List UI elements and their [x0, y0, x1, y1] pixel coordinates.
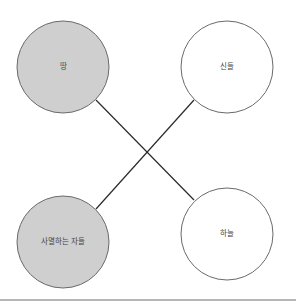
node-label-sky: 하늘	[220, 228, 234, 238]
edge-earth-sky	[96, 100, 194, 200]
node-label-gods: 신들	[220, 62, 234, 71]
node-earth: 땅	[17, 21, 109, 113]
fourfold-diagram: 땅 신들 사멸하는 자들 하늘	[0, 0, 296, 308]
node-gods: 신들	[181, 21, 273, 113]
node-sky: 하늘	[181, 188, 273, 280]
node-label-mortals: 사멸하는 자들	[41, 236, 85, 246]
edges	[96, 100, 194, 209]
node-mortals: 사멸하는 자들	[17, 196, 109, 288]
edge-gods-mortals	[96, 100, 194, 209]
node-label-earth: 땅	[60, 61, 67, 71]
